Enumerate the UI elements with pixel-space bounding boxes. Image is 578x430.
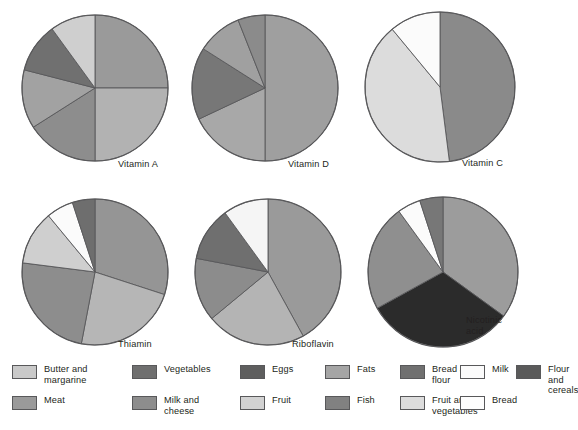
legend-item: Butter and margarine <box>12 364 88 385</box>
legend-label: Bread <box>492 395 517 406</box>
legend-label: Vegetables <box>164 364 211 375</box>
pie-slice-vitamin-a-1 <box>95 88 168 161</box>
legend-swatch <box>460 396 485 410</box>
legend-label: Flour and cereals <box>548 364 578 396</box>
pie-title-riboflavin: Riboflavin <box>292 339 334 350</box>
legend-label: Fish <box>357 395 375 406</box>
legend-swatch <box>12 365 37 379</box>
legend-swatch <box>460 365 485 379</box>
pie-title-thiamin: Thiamin <box>118 339 152 350</box>
legend-swatch <box>132 365 157 379</box>
legend-item: Milk <box>460 364 509 379</box>
legend-swatch <box>516 365 541 379</box>
pie-chart-vitamin-a <box>20 13 170 163</box>
legend-swatch <box>12 396 37 410</box>
legend-item: Fats <box>325 364 375 379</box>
legend-label: Eggs <box>272 364 293 375</box>
pie-slice-vitamin-d-0 <box>265 15 338 161</box>
legend-swatch <box>325 396 350 410</box>
legend-item: Bread <box>460 395 517 410</box>
pie-chart-thiamin <box>20 197 170 347</box>
legend-label: Fats <box>357 364 375 375</box>
legend-label: Fruit <box>272 395 291 406</box>
pie-chart-riboflavin <box>193 197 343 347</box>
food-source-legend: Butter and margarineMeatVegetablesMilk a… <box>0 358 571 430</box>
legend-item: Milk and cheese <box>132 395 199 416</box>
legend-label: Butter and margarine <box>44 364 88 385</box>
legend-item: Flour and cereals <box>516 364 578 396</box>
pie-title-nicotinic-acid: Nicotinic acid <box>466 315 502 336</box>
pie-slice-vitamin-c-0 <box>440 12 515 161</box>
legend-swatch <box>240 396 265 410</box>
pie-title-vitamin-c: Vitamin C <box>462 158 503 169</box>
legend-swatch <box>132 396 157 410</box>
pie-title-vitamin-d: Vitamin D <box>288 159 329 170</box>
legend-item: Eggs <box>240 364 293 379</box>
pie-slice-thiamin-2 <box>22 263 95 344</box>
legend-swatch <box>400 396 425 410</box>
pie-slice-vitamin-a-0 <box>95 15 168 88</box>
legend-label: Milk and cheese <box>164 395 199 416</box>
pie-chart-grid: Vitamin AVitamin DVitamin CThiaminRibofl… <box>0 0 571 356</box>
legend-item: Fish <box>325 395 375 410</box>
legend-swatch <box>325 365 350 379</box>
legend-label: Meat <box>44 395 65 406</box>
legend-item: Vegetables <box>132 364 211 379</box>
pie-title-vitamin-a: Vitamin A <box>118 159 158 170</box>
legend-swatch <box>400 365 425 379</box>
legend-item: Meat <box>12 395 65 410</box>
pie-chart-vitamin-d <box>190 13 340 163</box>
pie-chart-vitamin-c <box>363 10 517 164</box>
legend-label: Milk <box>492 364 509 375</box>
legend-swatch <box>240 365 265 379</box>
legend-item: Fruit <box>240 395 291 410</box>
